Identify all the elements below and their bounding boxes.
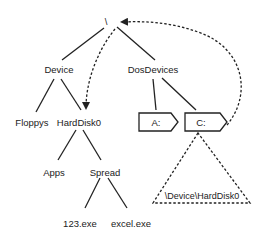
edge-harddisk0-spread — [83, 130, 101, 160]
c-drive-label: C: — [196, 117, 206, 128]
excel-label[interactable]: excel.exe — [111, 218, 151, 229]
device-label[interactable]: Device — [44, 64, 73, 75]
symlink-target-label: \Device\HardDisk0 — [165, 191, 240, 201]
edge-root-device — [62, 28, 104, 60]
edge-dosdevices-a — [153, 79, 156, 110]
dosdevices-label[interactable]: DosDevices — [128, 64, 179, 75]
edge-root-dosdevices — [117, 27, 155, 60]
link-root-to-harddisk0 — [86, 29, 115, 108]
exe123-label[interactable]: 123.exe — [63, 218, 97, 229]
object-namespace-diagram: \ Device DosDevices Floppys HardDisk0 Ap… — [0, 0, 263, 238]
diagram-svg: \ Device DosDevices Floppys HardDisk0 Ap… — [0, 0, 263, 238]
floppys-label[interactable]: Floppys — [15, 117, 49, 128]
spread-label[interactable]: Spread — [90, 167, 121, 178]
edge-spread-123exe — [85, 178, 100, 208]
harddisk0-label[interactable]: HardDisk0 — [57, 117, 101, 128]
root-label: \ — [105, 16, 108, 27]
edge-device-harddisk0 — [61, 79, 81, 110]
apps-label[interactable]: Apps — [43, 167, 65, 178]
c-drive-box[interactable] — [185, 113, 227, 131]
edge-spread-excel — [108, 178, 127, 208]
a-drive-label: A: — [152, 117, 161, 128]
edge-harddisk0-apps — [58, 130, 76, 160]
edge-device-floppys — [36, 79, 54, 112]
edge-dosdevices-c — [162, 78, 196, 110]
